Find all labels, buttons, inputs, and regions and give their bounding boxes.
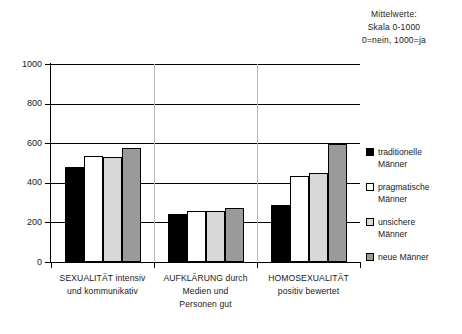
legend-label-line-1: neue Männer [378, 251, 462, 263]
y-tick-label-800: 800 [4, 99, 42, 108]
bar-3-traditionelle-männer[interactable] [271, 205, 290, 262]
caption-line-1: Mittelwerte: [330, 8, 458, 21]
bar-2-neue-männer[interactable] [225, 208, 244, 262]
x-axis-line [51, 262, 361, 263]
legend-swatch-traditionelle-maenner [366, 148, 374, 156]
bar-3-pragmatische-männer[interactable] [290, 176, 309, 262]
legend-label-line-1: traditionelle [378, 146, 462, 158]
legend-item-unsichere-maenner[interactable]: unsichereMänner [366, 216, 462, 240]
gridline-600 [51, 143, 360, 144]
chart-caption: Mittelwerte: Skala 0-1000 0=nein, 1000=j… [330, 8, 458, 47]
legend-label-neue-maenner: neue Männer [378, 251, 462, 263]
bar-3-unsichere-männer[interactable] [309, 173, 328, 262]
bar-1-neue-männer[interactable] [122, 148, 141, 262]
legend-label-line-1: pragmatische [378, 181, 462, 193]
legend-swatch-unsichere-maenner [366, 218, 374, 226]
category-label-2-line-3: Personen gut [140, 298, 271, 311]
legend-swatch-pragmatische-maenner [366, 183, 374, 191]
x-tick-1 [154, 262, 155, 268]
plot-area [51, 64, 360, 262]
gridline-800 [51, 104, 360, 105]
legend-item-pragmatische-maenner[interactable]: pragmatischeMänner [366, 181, 462, 205]
bar-1-traditionelle-männer[interactable] [65, 167, 84, 262]
bar-2-pragmatische-männer[interactable] [187, 211, 206, 262]
legend-label-line-1: unsichere [378, 216, 462, 228]
caption-line-2: Skala 0-1000 [330, 21, 458, 34]
y-tick-label-400: 400 [4, 178, 42, 187]
legend-item-neue-maenner[interactable]: neue Männer [366, 251, 462, 263]
y-tick-label-200: 200 [4, 218, 42, 227]
legend-label-line-2: Männer [378, 228, 462, 240]
gridline-1000 [51, 64, 360, 65]
chart-legend: traditionelleMännerpragmatischeMänneruns… [366, 146, 462, 274]
bar-1-pragmatische-männer[interactable] [84, 156, 103, 262]
legend-swatch-neue-maenner [366, 253, 374, 261]
x-tick-0 [51, 262, 52, 268]
legend-label-traditionelle-maenner: traditionelleMänner [378, 146, 462, 170]
category-separator-2 [257, 64, 258, 262]
legend-label-pragmatische-maenner: pragmatischeMänner [378, 181, 462, 205]
legend-item-traditionelle-maenner[interactable]: traditionelleMänner [366, 146, 462, 170]
bar-3-neue-männer[interactable] [328, 144, 347, 262]
legend-label-line-2: Männer [378, 193, 462, 205]
bar-2-traditionelle-männer[interactable] [168, 214, 187, 262]
bar-chart: Mittelwerte: Skala 0-1000 0=nein, 1000=j… [0, 0, 462, 334]
category-separator-1 [154, 64, 155, 262]
category-label-3-line-2: positiv bewertet [243, 285, 374, 298]
x-tick-3 [360, 262, 361, 268]
bar-1-unsichere-männer[interactable] [103, 157, 122, 262]
caption-line-3: 0=nein, 1000=ja [330, 34, 458, 47]
category-label-3-line-1: HOMOSEXUALITÄT [243, 272, 374, 285]
legend-label-unsichere-maenner: unsichereMänner [378, 216, 462, 240]
x-tick-2 [257, 262, 258, 268]
y-tick-label-600: 600 [4, 139, 42, 148]
y-tick-label-0: 0 [4, 258, 42, 267]
legend-label-line-2: Männer [378, 158, 462, 170]
y-tick-label-1000: 1000 [4, 60, 42, 69]
category-label-3: HOMOSEXUALITÄTpositiv bewertet [243, 272, 374, 298]
bar-2-unsichere-männer[interactable] [206, 211, 225, 262]
